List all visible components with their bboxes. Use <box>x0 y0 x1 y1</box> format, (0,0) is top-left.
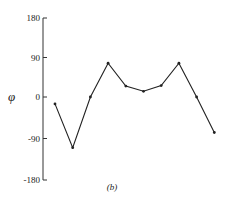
data-line <box>55 63 214 148</box>
y-tick-label: -180 <box>24 175 41 185</box>
data-point <box>107 62 110 65</box>
data-point <box>54 103 57 106</box>
y-tick-label: 180 <box>27 13 41 23</box>
y-tick-label: 0 <box>36 92 41 102</box>
data-point <box>195 96 198 99</box>
data-point <box>89 96 92 99</box>
data-point <box>178 62 181 65</box>
data-point <box>142 90 145 93</box>
y-tick-label: -90 <box>28 134 40 144</box>
data-point <box>124 85 127 88</box>
y-tick-label: 90 <box>31 53 41 63</box>
y-axis-label: φ <box>8 89 15 104</box>
phi-line-chart: 180900-90-180 φ (b) <box>0 0 226 198</box>
data-point <box>71 146 74 149</box>
data-point <box>213 131 216 134</box>
data-points <box>54 62 216 149</box>
data-point <box>160 84 163 87</box>
figure-caption: (b) <box>107 182 118 192</box>
